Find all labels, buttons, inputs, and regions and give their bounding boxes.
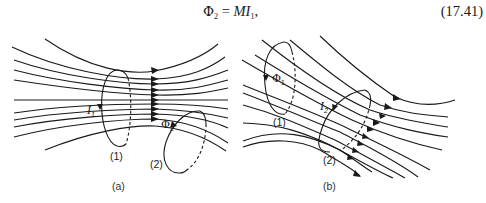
field-arrows-b	[347, 94, 401, 177]
field-arrows-a	[151, 67, 159, 122]
flux-label-a: Φ2	[161, 118, 174, 132]
field-lines-a	[12, 39, 228, 151]
mutual-inductance-figure: I1 Φ2 (1) (2) (a)	[0, 0, 486, 203]
loop-2-label-a: (2)	[150, 158, 163, 170]
loop-2-label-b: (2)	[323, 154, 336, 166]
caption-b: (b)	[323, 180, 336, 192]
current-arrow-b	[332, 104, 338, 111]
flux-label-b: Φ1	[272, 72, 285, 86]
loop-1-label-b: (1)	[273, 116, 286, 128]
loop-1-label-a: (1)	[110, 150, 123, 162]
figure-b	[242, 36, 455, 178]
current-label-b: I2	[319, 99, 328, 114]
loop-2-b	[319, 90, 371, 152]
caption-a: (a)	[112, 180, 125, 192]
